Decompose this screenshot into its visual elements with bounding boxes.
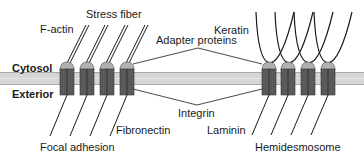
integrin-2 [80, 62, 94, 95]
label-hemidesmosome: Hemidesmosome [255, 141, 341, 153]
keratin-filaments [256, 12, 352, 63]
label-exterior: Exterior [12, 88, 54, 100]
label-keratin: Keratin [214, 24, 249, 36]
diagram: Stress fiber F-actin Adapter proteins Ke… [0, 0, 364, 161]
label-focal-adhesion: Focal adhesion [40, 141, 115, 153]
laminin-strands [252, 95, 328, 135]
integrin-7 [301, 62, 315, 95]
integrin-1 [60, 62, 74, 95]
integrin-6 [281, 62, 295, 95]
integrin-pointer-lines [133, 89, 262, 105]
label-cytosol: Cytosol [12, 62, 52, 74]
label-stress-fiber: Stress fiber [86, 8, 142, 20]
integrin-3 [100, 62, 114, 95]
label-fibronectin: Fibronectin [116, 124, 170, 136]
stress-fibers [67, 25, 148, 63]
integrin-8 [321, 62, 335, 95]
integrin-4 [120, 62, 134, 95]
integrin-5 [262, 62, 276, 95]
adapter-pointer-lines [133, 48, 262, 64]
label-integrin: Integrin [178, 107, 215, 119]
label-f-actin: F-actin [40, 23, 74, 35]
label-laminin: Laminin [207, 124, 246, 136]
